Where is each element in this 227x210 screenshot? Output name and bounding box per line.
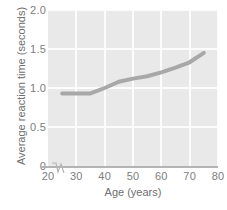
x-tick-label: 30 (70, 170, 83, 182)
y-tick-label: 0.5 (30, 121, 46, 133)
y-axis-title: Average reaction time (seconds) (15, 1, 27, 171)
axis-break-icon (51, 162, 65, 174)
chart-container: 00.51.01.52.0 20304050607080 Age (years)… (0, 0, 227, 210)
x-axis-line (40, 166, 218, 168)
data-series-line (48, 10, 218, 166)
y-tick-label: 1.0 (30, 82, 46, 94)
y-tick-label: 1.5 (30, 43, 46, 55)
plot-area (48, 10, 218, 166)
x-tick-label: 50 (127, 170, 140, 182)
x-tick-label: 80 (212, 170, 225, 182)
x-tick-label: 40 (98, 170, 111, 182)
x-axis-title: Age (years) (48, 186, 218, 198)
y-tick-label: 2.0 (30, 4, 46, 16)
x-tick-label: 60 (155, 170, 168, 182)
x-tick-label: 70 (183, 170, 196, 182)
